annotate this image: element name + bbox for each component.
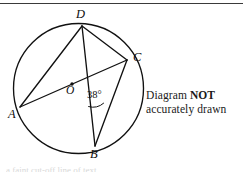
vertex-label-A: A <box>8 108 16 121</box>
not-accurately-drawn-note: Diagram NOT accurately drawn <box>146 89 243 116</box>
chord-CB <box>95 60 127 146</box>
vertex-label-C: C <box>133 51 141 64</box>
note-line1-emphasis: NOT <box>190 89 215 101</box>
circle-geometry-diagram <box>0 0 243 172</box>
note-line1-prefix: Diagram <box>146 89 190 101</box>
figure-page: D C A B O 38° Diagram NOT accurately dra… <box>0 0 243 172</box>
cut-off-bottom-caption: a faint cut-off line of text <box>6 165 236 172</box>
vertex-label-D: D <box>76 8 85 21</box>
vertex-label-O: O <box>66 85 74 97</box>
chord-DB <box>82 26 95 146</box>
circle-outline <box>14 24 144 154</box>
note-line2: accurately drawn <box>146 103 226 115</box>
angle-measure-label: 38° <box>87 90 102 101</box>
chord-DC <box>82 26 127 60</box>
vertex-label-B: B <box>90 148 98 161</box>
